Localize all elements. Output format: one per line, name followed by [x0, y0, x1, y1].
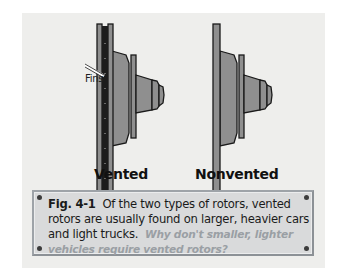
caption-text: Fig. 4-1 Of the two types of rotors, ven…	[48, 197, 310, 257]
vented-label: Vented	[94, 166, 148, 182]
rivet-icon	[37, 195, 42, 200]
rotor-diagram	[22, 13, 325, 203]
nonvented-label: Nonvented	[195, 166, 278, 182]
rivet-icon	[37, 246, 42, 251]
fins-callout-label: Fins	[85, 73, 103, 84]
figure-number: Fig. 4-1	[48, 197, 96, 211]
figure-caption-box: Fig. 4-1 Of the two types of rotors, ven…	[32, 190, 314, 256]
